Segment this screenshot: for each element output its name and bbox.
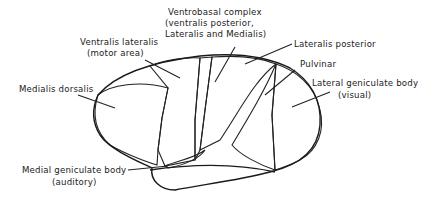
thalamus-outline [94,55,320,190]
thalamus-diagram: Ventrobasal complex (ventralis posterior… [0,0,427,206]
svg-text:Ventralis lateralis: Ventralis lateralis [80,37,159,47]
svg-text:(ventralis posterior,: (ventralis posterior, [165,18,254,28]
svg-text:Lateralis and Medialis): Lateralis and Medialis) [165,29,266,39]
svg-text:Medial geniculate body: Medial geniculate body [22,165,126,175]
svg-text:(auditory): (auditory) [52,177,97,187]
region-pulvinar [232,64,276,170]
region-medialis-dorsalis [95,84,168,165]
svg-text:(motor area): (motor area) [87,48,144,58]
inner-contour [150,165,275,172]
label-medialis-dorsalis: Medialis dorsalis [19,84,94,94]
svg-text:Lateral geniculate body: Lateral geniculate body [312,78,418,88]
label-lateralis-posterior: Lateralis posterior [294,39,376,49]
label-ventralis-lateralis: Ventralis lateralis (motor area) [80,37,159,58]
label-ventrobasal-complex: Ventrobasal complex (ventralis posterior… [165,7,266,39]
region-ventralis-lateralis [150,58,200,166]
label-pulvinar: Pulvinar [300,59,336,69]
svg-text:Ventrobasal complex: Ventrobasal complex [168,7,262,17]
label-medial-geniculate: Medial geniculate body (auditory) [22,165,126,187]
label-lateral-geniculate: Lateral geniculate body (visual) [312,78,418,100]
svg-text:(visual): (visual) [338,90,371,100]
